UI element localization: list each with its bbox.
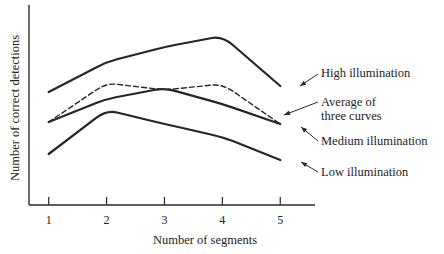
series-layer bbox=[49, 36, 281, 160]
arrowhead-icon bbox=[300, 81, 306, 86]
x-ticks bbox=[49, 197, 281, 205]
series-line-low-illumination bbox=[49, 112, 281, 160]
x-tick-label-3: 3 bbox=[161, 213, 167, 227]
arrowhead-icon bbox=[284, 111, 291, 116]
series-line-medium-illumination bbox=[49, 89, 281, 124]
y-axis-title: Number of correct detections bbox=[8, 35, 22, 181]
annotation-low-illumination: Low illumination bbox=[321, 165, 409, 179]
x-tick-label-4: 4 bbox=[219, 213, 225, 227]
annotation-high-illumination: High illumination bbox=[321, 66, 411, 80]
x-tick-labels: 12345 bbox=[46, 213, 284, 227]
annotation-average-of-three-curves-line-1: Average of bbox=[321, 95, 377, 109]
annotation-average-of-three-curves-line-2: three curves bbox=[321, 109, 382, 123]
x-tick-label-5: 5 bbox=[277, 213, 283, 227]
chart: 12345 Number of segments Number of corre… bbox=[0, 0, 444, 254]
arrowhead-icon bbox=[301, 162, 307, 167]
x-tick-label-2: 2 bbox=[104, 213, 110, 227]
x-axis-title: Number of segments bbox=[153, 233, 257, 247]
axes bbox=[29, 5, 315, 205]
annotation-medium-illumination: Medium illumination bbox=[321, 134, 428, 148]
annotation-layer: High illuminationAverage ofthree curvesM… bbox=[284, 66, 428, 179]
x-tick-label-1: 1 bbox=[46, 213, 52, 227]
series-line-high-illumination bbox=[49, 38, 281, 92]
